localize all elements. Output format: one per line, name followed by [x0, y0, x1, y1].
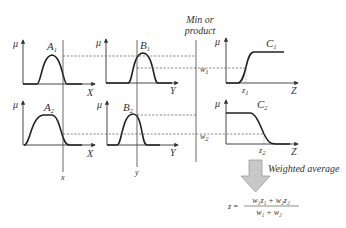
down-arrow-icon — [241, 160, 270, 192]
min-or-label: Min or — [185, 14, 214, 25]
mu-label: μ — [214, 36, 220, 47]
product-label: product — [184, 25, 216, 36]
z2-label: z2 — [258, 146, 266, 156]
membership-curve-b2 — [107, 114, 160, 145]
formula-lhs: z = — [227, 202, 239, 211]
mu-label: μ — [96, 99, 102, 110]
c1-label: C1 — [266, 37, 277, 50]
b1-label: B1 — [140, 39, 150, 52]
formula-numerator: w₁z₁ + w₂z₂ — [252, 196, 290, 205]
graph-b1: μ B1 Y — [95, 37, 178, 96]
graph-a1: μ A1 X — [12, 38, 95, 98]
mu-label: μ — [12, 99, 18, 110]
mu-label: μ — [214, 98, 220, 109]
graph-a2: μ A2 X — [12, 99, 95, 159]
graph-c2: μ C2 z2 Z — [214, 98, 298, 157]
fuzzy-inference-diagram: Min or product μ A1 X μ B1 Y μ C1 z1 Z w… — [0, 0, 346, 228]
membership-curve-c2 — [226, 113, 290, 144]
membership-curve-a1 — [23, 55, 82, 84]
x-axis-label: X — [86, 87, 94, 98]
a1-label: A1 — [46, 40, 57, 53]
graph-c1: μ C1 z1 Z — [214, 36, 298, 96]
x-axis-label: X — [86, 148, 94, 159]
w1-label: w1 — [200, 65, 209, 75]
c2-label: C2 — [257, 98, 268, 111]
y-axis-label: Y — [170, 147, 177, 158]
membership-curve-c1 — [226, 52, 284, 83]
z1-label: z1 — [241, 86, 248, 96]
z-axis-label: Z — [291, 85, 297, 96]
mu-label: μ — [12, 38, 18, 49]
membership-curve-a2 — [24, 115, 82, 145]
w2-label: w2 — [200, 132, 209, 142]
input-y-label: y — [134, 168, 139, 177]
y-axis-label: Y — [170, 85, 177, 96]
z-axis-label: Z — [291, 146, 297, 157]
weighted-average-label: Weighted average — [268, 163, 340, 174]
weighted-average-formula: z = w₁z₁ + w₂z₂ w₁ + w₂ — [227, 196, 299, 217]
formula-denominator: w₁ + w₂ — [256, 208, 282, 217]
input-x-label: x — [60, 173, 65, 182]
mu-label: μ — [95, 37, 101, 48]
b2-label: B2 — [123, 101, 134, 114]
a2-label: A2 — [43, 101, 55, 114]
